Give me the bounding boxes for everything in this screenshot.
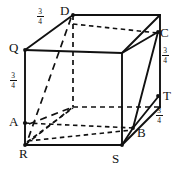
vertex-label-Q: Q (9, 41, 18, 54)
line-A-to-B (25, 123, 134, 128)
fraction-numerator: 3 (158, 47, 172, 55)
fraction-numerator: 3 (152, 107, 166, 115)
vertex-label-T: T (163, 89, 171, 102)
vertex-label-C: C (160, 26, 169, 39)
edge-measure-right-lower: 3 4 (152, 107, 166, 125)
edge-measure-right-upper: 3 4 (158, 47, 172, 65)
vertex-label-B: B (137, 126, 146, 139)
dot-D (71, 13, 75, 17)
cube-diagram: D C Q T A B R S 3 4 3 4 3 4 3 4 (0, 0, 182, 173)
vertex-label-S: S (112, 152, 119, 165)
vertex-label-D: D (60, 4, 69, 17)
diagonal-D-to-R (27, 18, 71, 142)
dot-A (23, 121, 27, 125)
line-R-to-B (28, 130, 132, 141)
diagonal-Q-to-A-construction (29, 107, 73, 124)
fraction-denominator: 4 (152, 117, 166, 125)
edge-measure-top-left: 3 4 (33, 8, 47, 26)
dot-S (120, 143, 124, 147)
fraction-numerator: 3 (6, 72, 20, 80)
vertex-label-R: R (19, 147, 28, 160)
fraction-numerator: 3 (33, 8, 47, 16)
fraction-denominator: 4 (33, 18, 47, 26)
dot-T (156, 94, 160, 98)
dot-Q (23, 48, 27, 52)
dot-B (131, 126, 135, 130)
vertex-label-A: A (9, 115, 18, 128)
fraction-denominator: 4 (158, 57, 172, 65)
edge-measure-left: 3 4 (6, 72, 20, 90)
fraction-denominator: 4 (6, 82, 20, 90)
